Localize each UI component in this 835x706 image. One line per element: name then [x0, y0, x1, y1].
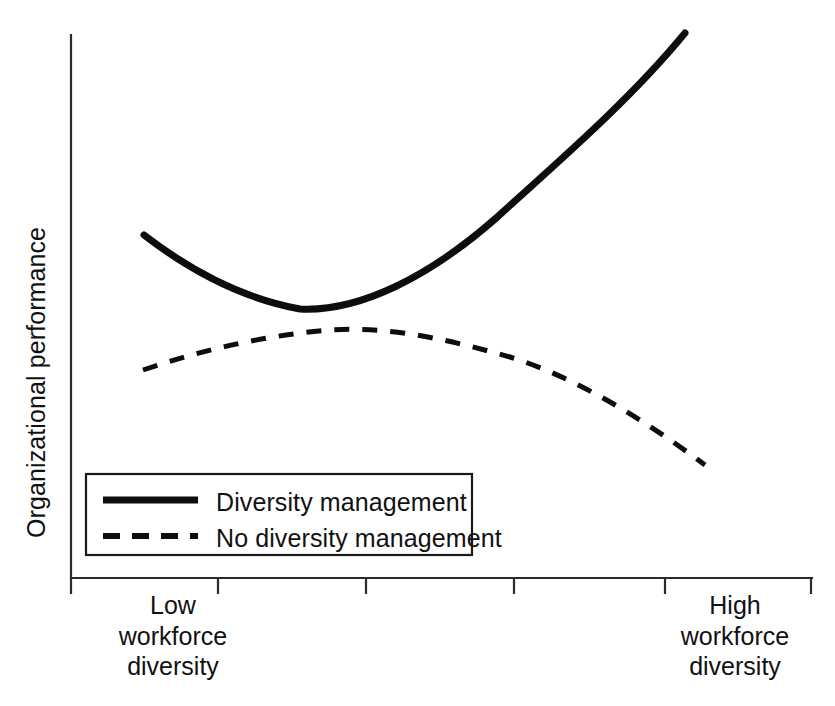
chart-figure: Organizational performance Low workforce…	[0, 0, 835, 706]
series-line-no-diversity-management	[143, 329, 705, 465]
series-line-diversity-management	[144, 33, 685, 309]
y-axis-label: Organizational performance	[22, 68, 51, 538]
legend-label-diversity-management: Diversity management	[216, 488, 467, 517]
x-axis-label-low: Low workforce diversity	[78, 590, 268, 682]
x-axis-label-high: High workforce diversity	[640, 590, 830, 682]
legend-label-no-diversity-management: No diversity management	[216, 524, 502, 553]
